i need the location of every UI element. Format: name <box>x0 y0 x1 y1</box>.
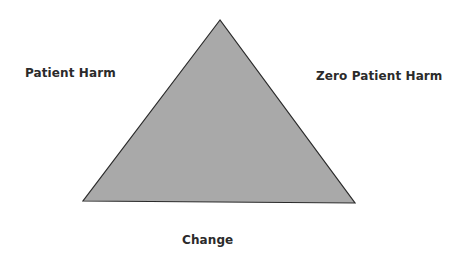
label-change: Change <box>182 233 233 247</box>
label-patient-harm: Patient Harm <box>25 66 116 80</box>
diagram-canvas <box>0 0 463 265</box>
triangle-graphic <box>0 0 463 265</box>
label-zero-patient-harm: Zero Patient Harm <box>316 69 442 83</box>
triangle-shape <box>83 20 355 203</box>
